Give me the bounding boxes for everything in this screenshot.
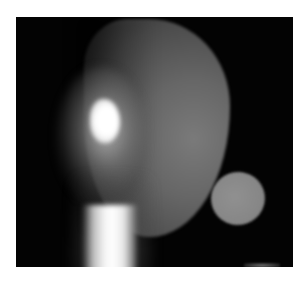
neck-column <box>82 205 138 267</box>
edge-artifact <box>244 263 280 267</box>
image-frame <box>16 17 293 267</box>
focal-hotspot <box>90 99 120 143</box>
